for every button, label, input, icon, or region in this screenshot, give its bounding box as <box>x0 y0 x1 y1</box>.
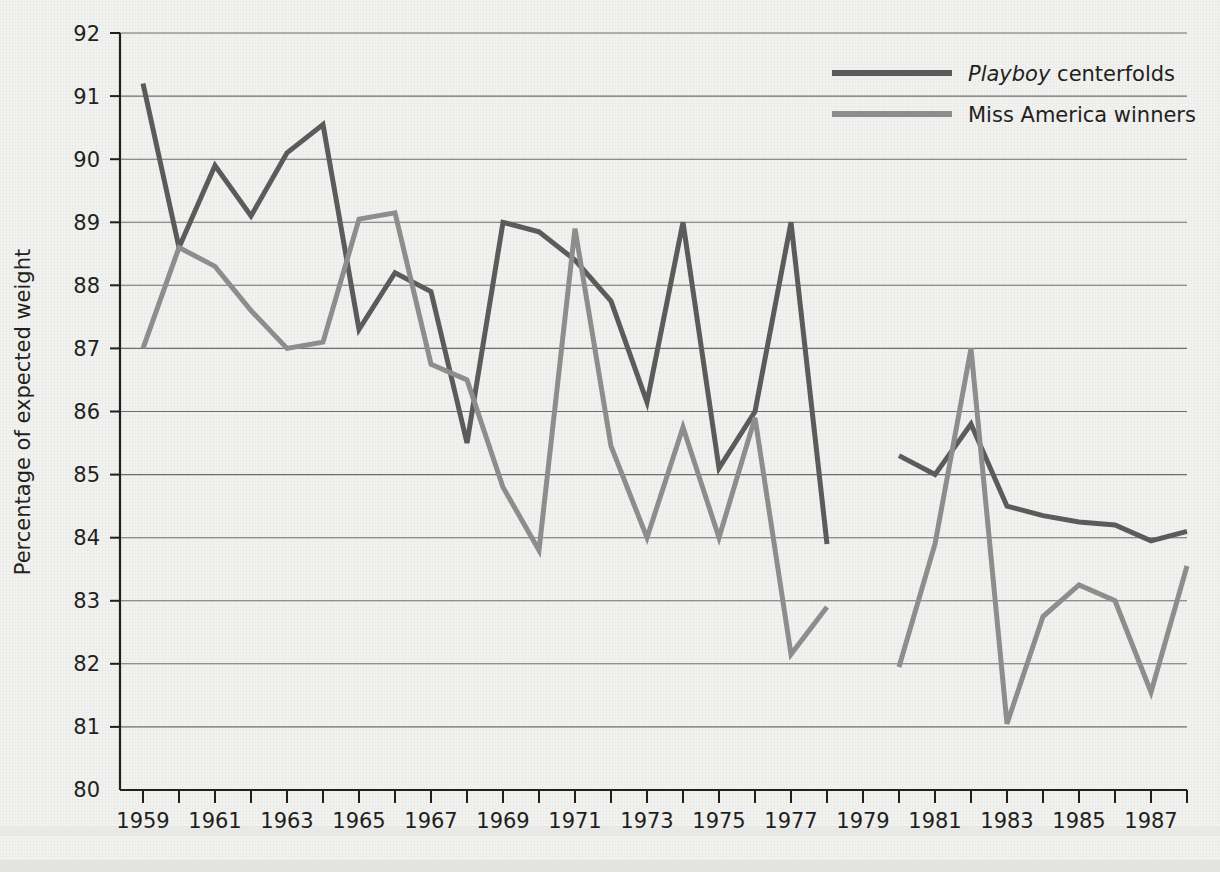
y-tick-labels: 92 91 90 89 88 87 86 85 84 83 82 81 80 <box>73 22 100 802</box>
x-tick-label: 1971 <box>548 809 601 833</box>
y-tick-label: 81 <box>73 715 100 739</box>
series-layer <box>143 83 1187 723</box>
x-tick-label: 1975 <box>692 809 745 833</box>
y-tick-label: 84 <box>73 526 100 550</box>
legend-label-playboy: Playboy centerfolds <box>968 62 1175 86</box>
y-tick-label: 89 <box>73 211 100 235</box>
y-tick-label: 85 <box>73 463 100 487</box>
y-tick-label: 87 <box>73 337 100 361</box>
series-line <box>899 424 1187 541</box>
x-tickmarks <box>143 790 1187 803</box>
x-tick-label: 1979 <box>836 809 889 833</box>
y-tick-label: 82 <box>73 652 100 676</box>
x-tick-label: 1961 <box>188 809 241 833</box>
series-line <box>143 213 827 655</box>
y-tickmarks <box>110 33 120 727</box>
y-tick-label: 83 <box>73 589 100 613</box>
x-tick-label: 1969 <box>476 809 529 833</box>
legend-label-playboy-rest: centerfolds <box>1050 62 1175 86</box>
y-axis-title: Percentage of expected weight <box>11 249 35 575</box>
x-tick-label: 1985 <box>1052 809 1105 833</box>
x-tick-labels: 1959196119631965196719691971197319751977… <box>116 809 1177 833</box>
legend-label-playboy-italic: Playboy <box>968 62 1051 86</box>
x-tick-label: 1965 <box>332 809 385 833</box>
y-tick-label: 86 <box>73 400 100 424</box>
figure-container: Percentage of expected weight <box>0 0 1220 872</box>
y-tick-label: 90 <box>73 148 100 172</box>
y-tick-label: 80 <box>73 778 100 802</box>
y-tick-label: 91 <box>73 85 100 109</box>
y-tick-label: 92 <box>73 22 100 46</box>
x-tick-label: 1981 <box>908 809 961 833</box>
legend: Playboy centerfolds Miss America winners <box>832 62 1196 127</box>
legend-label-missamerica: Miss America winners <box>968 103 1196 127</box>
x-tick-label: 1983 <box>980 809 1033 833</box>
x-tick-label: 1987 <box>1124 809 1177 833</box>
x-tick-label: 1977 <box>764 809 817 833</box>
x-tick-label: 1963 <box>260 809 313 833</box>
y-tick-label: 88 <box>73 274 100 298</box>
x-tick-label: 1967 <box>404 809 457 833</box>
x-tick-label: 1973 <box>620 809 673 833</box>
x-tick-label: 1959 <box>116 809 169 833</box>
line-chart: Percentage of expected weight <box>0 0 1220 872</box>
